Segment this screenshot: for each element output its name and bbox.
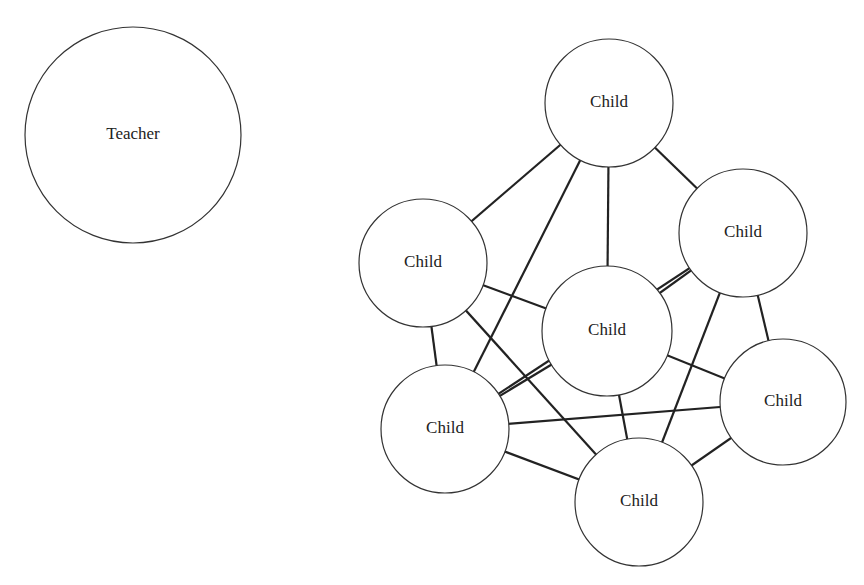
nodes-layer: TeacherChildChildChildChildChildChildChi… (25, 27, 846, 566)
node-label: Child (426, 418, 464, 437)
node-label: Child (404, 252, 442, 271)
sociogram-diagram: TeacherChildChildChildChildChildChildChi… (0, 0, 864, 585)
node-label: Child (590, 92, 628, 111)
node-teacher: Teacher (25, 27, 241, 243)
node-child_bottom: Child (575, 438, 703, 566)
node-label: Teacher (106, 124, 160, 143)
node-child_left: Child (359, 199, 487, 327)
node-label: Child (620, 491, 658, 510)
node-child_top: Child (545, 39, 673, 167)
node-label: Child (724, 222, 762, 241)
node-child_center: Child (542, 266, 672, 396)
node-child_upper_right: Child (679, 169, 807, 297)
node-label: Child (764, 391, 802, 410)
node-child_lower_left: Child (381, 365, 509, 493)
node-child_right: Child (720, 339, 846, 465)
node-label: Child (588, 320, 626, 339)
